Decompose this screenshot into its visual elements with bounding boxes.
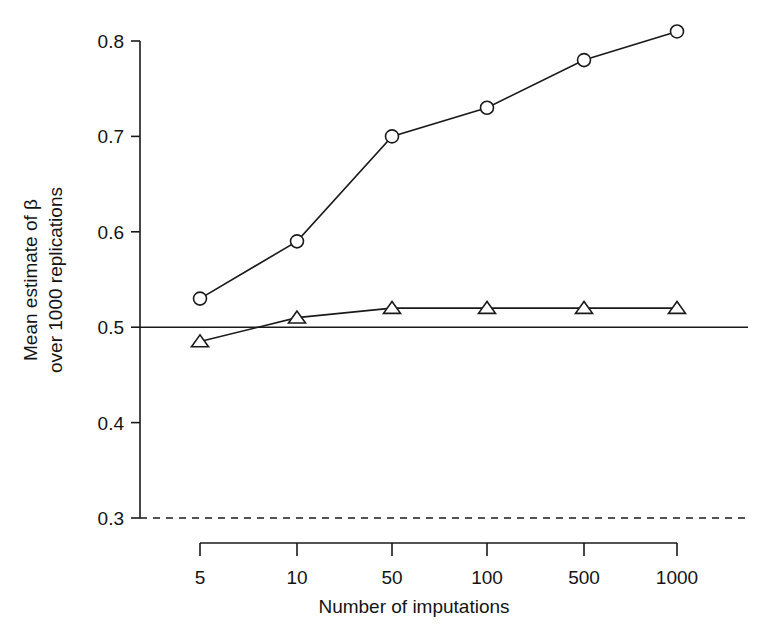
x-axis-tick-label: 50 [381, 567, 402, 588]
circle-series-marker [194, 292, 207, 305]
circle-series-line [200, 31, 677, 298]
y-axis-tick-label: 0.3 [98, 508, 124, 529]
x-axis-tick-label: 10 [286, 567, 307, 588]
y-axis-tick-label: 0.6 [98, 222, 124, 243]
triangle-series-line [200, 308, 677, 341]
circle-series-marker [481, 101, 494, 114]
chart-figure: Mean estimate of β over 1000 replication… [0, 0, 768, 636]
x-axis-label: Number of imputations [0, 596, 768, 618]
x-axis-tick-label: 500 [568, 567, 600, 588]
circle-series-marker [291, 235, 304, 248]
circle-series-marker [671, 25, 684, 38]
x-axis-tick-label: 100 [471, 567, 503, 588]
plot-area: 0.30.40.50.60.70.8510501005001000 [0, 0, 768, 636]
y-axis-tick-label: 0.8 [98, 31, 124, 52]
x-axis-tick-label: 5 [195, 567, 206, 588]
circle-series-marker [578, 54, 591, 67]
x-axis-tick-label: 1000 [656, 567, 698, 588]
y-axis-tick-label: 0.7 [98, 126, 124, 147]
circle-series-marker [386, 130, 399, 143]
y-axis-tick-label: 0.5 [98, 317, 124, 338]
y-axis-tick-label: 0.4 [98, 413, 125, 434]
